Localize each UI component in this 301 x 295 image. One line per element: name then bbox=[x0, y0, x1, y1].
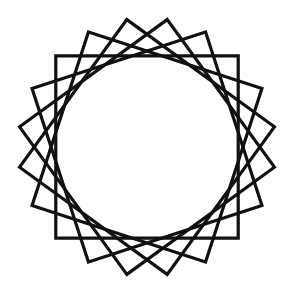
rosette-figure bbox=[0, 0, 301, 295]
square-outline bbox=[20, 20, 275, 275]
square-outline bbox=[32, 32, 262, 262]
square-outline bbox=[20, 20, 275, 275]
square-outline bbox=[56, 56, 238, 238]
square-outline bbox=[32, 32, 262, 262]
rotated-squares-star bbox=[0, 0, 301, 295]
